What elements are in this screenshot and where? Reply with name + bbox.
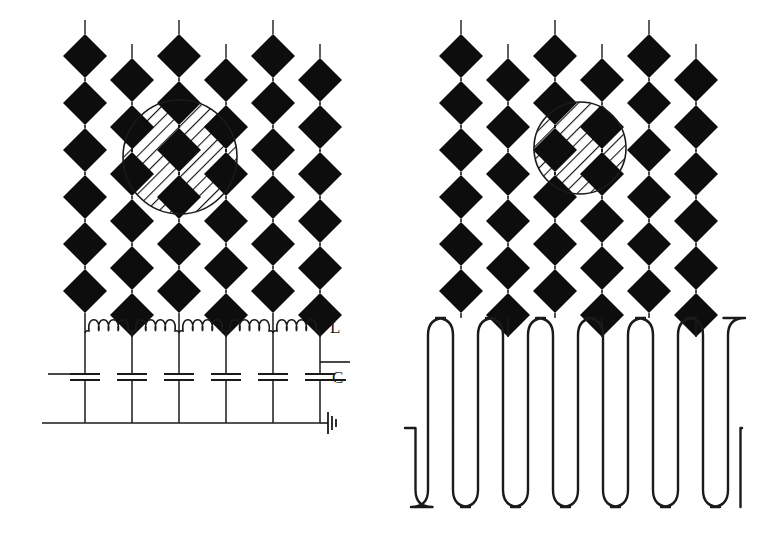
right-col1-diamond	[486, 199, 530, 243]
left-col3-diamond	[204, 58, 248, 102]
left-col2-diamond	[157, 34, 201, 78]
left-col1-diamond	[110, 246, 154, 290]
right-col1-diamond	[486, 246, 530, 290]
right-col5-diamond	[674, 199, 718, 243]
right-col2-diamond	[533, 222, 577, 266]
meander-trace	[405, 318, 745, 507]
left-col5-diamond	[298, 246, 342, 290]
right-col1-diamond	[486, 152, 530, 196]
right-col4-diamond	[627, 269, 671, 313]
meander-line	[405, 318, 745, 507]
figure-root: L C	[0, 0, 775, 554]
lumped-element-circuit-panel: L C	[0, 0, 388, 554]
right-col1-diamond	[486, 105, 530, 149]
left-col4-diamond	[251, 128, 295, 172]
left-col0-diamond	[63, 269, 107, 313]
right-col0-diamond	[439, 175, 483, 219]
left-col4-diamond	[251, 81, 295, 125]
left-col4-diamond	[251, 269, 295, 313]
left-col4-diamond	[251, 175, 295, 219]
right-col4-diamond	[627, 128, 671, 172]
right-col4-diamond	[627, 81, 671, 125]
left-col2-diamond	[157, 222, 201, 266]
right-col5-diamond	[674, 58, 718, 102]
left-col0-diamond	[63, 34, 107, 78]
right-col5-diamond	[674, 152, 718, 196]
left-col1-diamond	[110, 58, 154, 102]
meander-line-realization-panel	[388, 0, 775, 554]
lc-ladder-network	[42, 320, 350, 434]
right-col3-diamond	[580, 58, 624, 102]
right-col0-diamond	[439, 34, 483, 78]
right-col3-diamond	[580, 246, 624, 290]
right-col5-diamond	[674, 246, 718, 290]
right-col4-diamond	[627, 34, 671, 78]
left-col5-diamond	[298, 199, 342, 243]
left-col4-diamond	[251, 34, 295, 78]
left-col5-diamond	[298, 152, 342, 196]
right-col4-diamond	[627, 222, 671, 266]
left-col0-diamond	[63, 81, 107, 125]
right-col4-diamond	[627, 175, 671, 219]
right-col0-diamond	[439, 269, 483, 313]
right-col2-diamond	[533, 34, 577, 78]
right-col0-diamond	[439, 81, 483, 125]
left-col3-diamond	[204, 293, 248, 337]
ground-symbol	[320, 412, 336, 434]
right-col0-diamond	[439, 128, 483, 172]
left-col5-diamond	[298, 105, 342, 149]
left-col3-diamond	[204, 246, 248, 290]
left-col5-diamond	[298, 58, 342, 102]
right-col1-diamond	[486, 58, 530, 102]
right-col3-diamond	[580, 199, 624, 243]
right-col0-diamond	[439, 222, 483, 266]
meander-right-lead	[741, 428, 743, 507]
left-col1-diamond	[110, 199, 154, 243]
left-col0-diamond	[63, 175, 107, 219]
inductor-label: L	[330, 318, 340, 337]
left-col2-diamond	[157, 269, 201, 313]
capacitor-label: C	[332, 368, 343, 387]
right-col5-diamond	[674, 105, 718, 149]
left-col0-diamond	[63, 222, 107, 266]
left-col1-diamond	[110, 293, 154, 337]
left-col0-diamond	[63, 128, 107, 172]
left-col4-diamond	[251, 222, 295, 266]
right-col2-diamond	[533, 269, 577, 313]
